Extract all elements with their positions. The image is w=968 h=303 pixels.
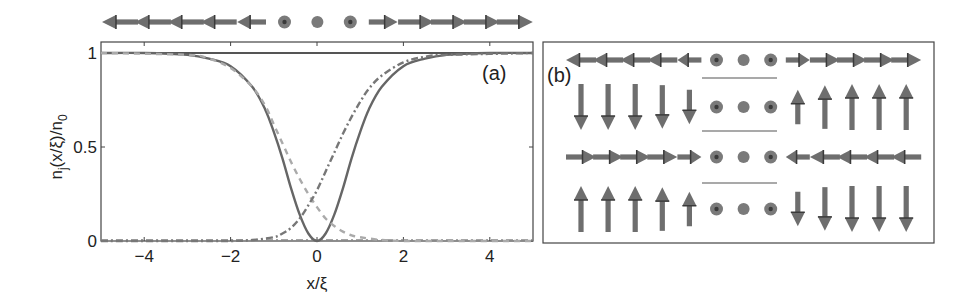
arrow-shaft bbox=[795, 192, 800, 213]
arrow-shaft bbox=[578, 84, 583, 116]
arrow-head-icon bbox=[601, 186, 615, 200]
arrow-shaft bbox=[606, 200, 611, 232]
figure: −4−202400.51 (a) x/ξ nj(x/ξ)/n0 (b) bbox=[0, 0, 968, 303]
spin-arrow-dot-icon bbox=[738, 151, 750, 163]
density-curves bbox=[101, 53, 533, 241]
spin-arrow-right-icon bbox=[593, 150, 623, 164]
spin-arrow-right-icon bbox=[891, 53, 921, 67]
arrow-head-icon bbox=[201, 15, 215, 29]
arrow-head-icon bbox=[691, 150, 702, 164]
spin-dot-icon bbox=[738, 151, 750, 163]
arrow-head-icon bbox=[682, 192, 696, 206]
spin-arrow-dot-icon bbox=[764, 101, 777, 114]
spin-arrow-up-icon bbox=[574, 186, 588, 232]
spin-arrow-down-icon bbox=[899, 186, 913, 232]
arrow-shaft bbox=[398, 19, 420, 24]
arrow-shaft bbox=[891, 57, 908, 62]
top-spin-arrow-left-icon bbox=[135, 15, 171, 29]
svg-text:nj(x/ξ)/n0: nj(x/ξ)/n0 bbox=[47, 114, 70, 179]
arrow-shaft bbox=[837, 57, 854, 62]
spin-arrow-left-icon bbox=[864, 150, 894, 164]
spin-arrow-left-icon bbox=[891, 150, 921, 164]
spin-arrow-left-icon bbox=[810, 150, 840, 164]
arrow-shaft bbox=[660, 85, 665, 115]
y-tick-label: 1 bbox=[88, 44, 97, 63]
series-dashdot-line bbox=[101, 53, 533, 241]
arrow-shaft bbox=[369, 19, 385, 24]
arrow-shaft bbox=[904, 98, 909, 130]
top-spin-arrow-dot-icon bbox=[344, 16, 357, 29]
arrow-shaft bbox=[677, 154, 690, 159]
arrow-shaft bbox=[182, 19, 204, 24]
arrow-head-icon bbox=[628, 186, 642, 200]
arrow-head-icon bbox=[620, 53, 634, 67]
arrow-head-icon bbox=[864, 150, 878, 164]
axis-ticks: −4−202400.51 bbox=[73, 42, 533, 266]
x-tick-label: 4 bbox=[485, 247, 494, 266]
arrow-head-icon bbox=[786, 150, 797, 164]
arrow-shaft bbox=[660, 201, 665, 231]
spin-dot-icon bbox=[738, 101, 750, 113]
spin-arrow-dot-icon bbox=[738, 54, 750, 66]
spin-arrow-down-icon bbox=[791, 192, 805, 227]
y-tick-label: 0 bbox=[88, 232, 97, 251]
arrow-shaft bbox=[215, 19, 237, 24]
arrow-shaft bbox=[849, 186, 854, 218]
spin-arrow-left-icon bbox=[837, 150, 867, 164]
arrow-head-icon bbox=[655, 187, 669, 201]
arrow-head-icon bbox=[647, 53, 661, 67]
spin-arrow-up-icon bbox=[899, 84, 913, 130]
arrow-shaft bbox=[116, 19, 138, 24]
arrow-shaft bbox=[593, 154, 610, 159]
spin-arrow-down-icon bbox=[818, 187, 832, 231]
arrow-shaft bbox=[810, 57, 827, 62]
arrow-head-icon bbox=[593, 53, 607, 67]
spin-arrow-up-icon bbox=[818, 85, 832, 129]
spin-arrow-left-icon bbox=[620, 53, 650, 67]
spin-arrow-right-icon bbox=[864, 53, 894, 67]
arrow-shaft bbox=[647, 154, 664, 159]
spin-arrow-up-icon bbox=[628, 186, 642, 232]
spin-arrow-right-icon bbox=[786, 53, 810, 67]
spin-arrow-up-icon bbox=[791, 90, 805, 125]
arrow-head-icon bbox=[891, 150, 905, 164]
arrow-shaft bbox=[606, 84, 611, 116]
arrow-shaft bbox=[797, 154, 810, 159]
arrow-head-icon bbox=[519, 15, 533, 29]
arrow-head-icon bbox=[655, 115, 669, 129]
y-label-mid: (x/ξ)/n bbox=[47, 121, 66, 167]
arrow-head-icon bbox=[845, 218, 859, 232]
top-spin-arrow-right-icon bbox=[464, 15, 500, 29]
arrow-shaft bbox=[661, 57, 678, 62]
y-tick-label: 0.5 bbox=[73, 138, 97, 157]
y-axis-label: nj(x/ξ)/n0 bbox=[47, 114, 70, 179]
arrow-shaft bbox=[877, 186, 882, 218]
arrow-head-icon bbox=[845, 84, 859, 98]
spin-arrow-right-icon bbox=[837, 53, 867, 67]
arrow-head-icon bbox=[908, 53, 922, 67]
arrow-head-icon bbox=[601, 116, 615, 130]
top-spin-arrow-dot-icon bbox=[311, 16, 323, 28]
top-spin-arrow-dot-icon bbox=[278, 16, 291, 29]
spin-arrow-left-icon bbox=[593, 53, 623, 67]
spin-arrow-up-icon bbox=[872, 84, 886, 130]
arrow-shaft bbox=[464, 19, 486, 24]
arrow-shaft bbox=[250, 19, 266, 24]
x-axis-label: x/ξ bbox=[307, 274, 328, 293]
top-spin-arrow-left-icon bbox=[168, 15, 204, 29]
arrow-shaft bbox=[431, 19, 453, 24]
arrow-shaft bbox=[864, 57, 881, 62]
spin-arrow-dot-icon bbox=[710, 101, 723, 114]
spin-arrow-up-icon bbox=[601, 186, 615, 232]
arrow-shaft bbox=[633, 84, 638, 116]
top-spin-arrow-left-icon bbox=[102, 15, 138, 29]
spin-arrow-up-icon bbox=[682, 192, 696, 227]
spin-arrow-down-icon bbox=[655, 85, 669, 129]
arrow-shaft bbox=[687, 206, 692, 227]
arrow-shaft bbox=[877, 98, 882, 130]
y-label-sub-0: 0 bbox=[56, 114, 70, 121]
spin-arrow-left-icon bbox=[647, 53, 677, 67]
spin-arrow-down-icon bbox=[682, 90, 696, 125]
arrow-head-icon bbox=[664, 150, 678, 164]
arrow-shaft bbox=[822, 99, 827, 129]
